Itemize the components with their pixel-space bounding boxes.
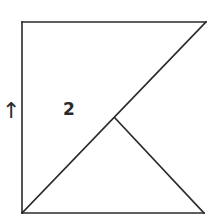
inner-segment [115, 118, 204, 213]
region-label: 2 [63, 101, 75, 118]
main-diagonal [22, 22, 206, 213]
up-arrow-icon: ↑ [2, 100, 20, 122]
diagram-canvas [0, 0, 208, 218]
